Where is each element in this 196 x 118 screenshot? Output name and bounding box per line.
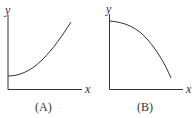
graph-a-curve [8, 22, 71, 76]
graph-b-curve [110, 21, 172, 78]
graph-b-y-label: y [106, 3, 111, 15]
graph-a-x-label: x [85, 83, 90, 95]
graphs-figure [0, 0, 196, 118]
graph-b-caption: (B) [137, 101, 153, 113]
graph-a [8, 15, 82, 90]
graph-b-x-label: x [186, 83, 191, 95]
graph-a-caption: (A) [35, 101, 52, 113]
graph-b [110, 14, 184, 90]
graph-a-y-label: y [5, 4, 10, 16]
